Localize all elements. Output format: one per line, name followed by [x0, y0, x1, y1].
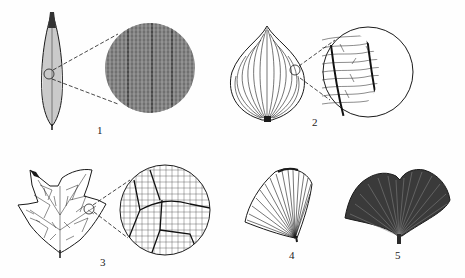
panel-4-leaf	[245, 169, 312, 242]
panel-4-label: 4	[289, 249, 295, 261]
panel-5-label: 5	[395, 249, 401, 261]
panel-3-magnified-detail	[120, 165, 210, 258]
panel-5-leaf	[345, 169, 450, 244]
figure-drawing	[0, 0, 465, 278]
panel-2-leaf	[230, 26, 335, 122]
panel-1-label: 1	[97, 124, 103, 136]
panel-2-magnified-detail	[322, 27, 415, 118]
panel-3-leaf	[18, 169, 130, 258]
panel-2-label: 2	[312, 116, 318, 128]
panel-3-label: 3	[100, 256, 106, 268]
leaf-venation-figure: 1 2 3 4 5	[0, 0, 465, 278]
